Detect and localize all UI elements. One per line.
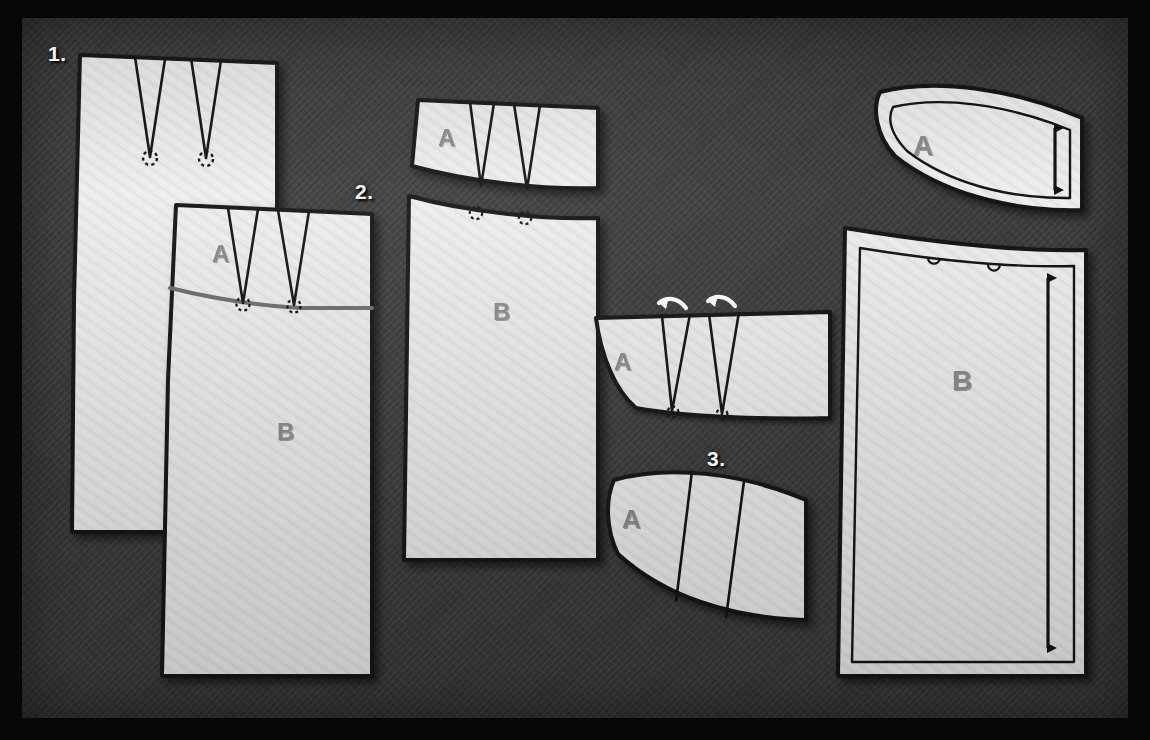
skirt-front-outline-step2 xyxy=(162,205,372,676)
yoke-curved-outline xyxy=(608,472,806,620)
lower-skirt-outline xyxy=(404,196,598,560)
piece-3-yoke-closed xyxy=(608,472,806,620)
step-label-3: 3. xyxy=(707,447,726,471)
piece-label-A: A xyxy=(622,504,641,534)
piece-label-A: A xyxy=(212,240,229,267)
piece-final-yoke xyxy=(876,86,1082,210)
piece-label-A: A xyxy=(614,348,631,375)
piece-2-combined xyxy=(162,205,372,676)
pattern-diagram-stage: A B A B xyxy=(0,0,1150,740)
piece-label-A: A xyxy=(913,130,933,161)
piece-2b-body xyxy=(404,196,598,560)
piece-label-B: B xyxy=(493,298,510,325)
step-label-1: 1. xyxy=(48,42,67,66)
piece-label-B: B xyxy=(277,418,294,445)
piece-label-A: A xyxy=(438,124,455,151)
step-label-2: 2. xyxy=(355,180,374,204)
piece-label-B: B xyxy=(952,365,972,396)
pattern-illustration: A B A B xyxy=(0,0,1150,740)
rotation-arrows xyxy=(659,297,735,308)
